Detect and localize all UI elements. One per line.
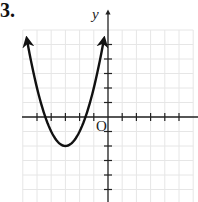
parabola-graph: y O: [0, 0, 198, 202]
origin-label: O: [96, 118, 107, 134]
axes: [22, 12, 198, 202]
y-axis-label: y: [90, 6, 99, 22]
